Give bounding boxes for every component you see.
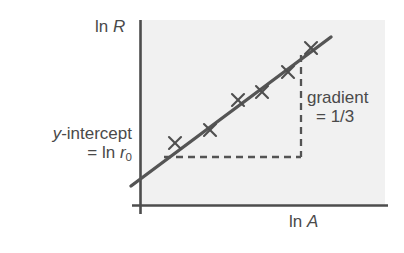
y-intercept-equals-ln: = ln <box>87 143 120 162</box>
y-intercept-annotation-line2: = ln r0 <box>14 143 132 163</box>
x-axis-label-prefix: ln <box>289 212 307 231</box>
x-axis-label-variable: A <box>307 212 318 231</box>
y-intercept-annotation: y-intercept = ln r0 <box>14 124 132 164</box>
y-intercept-variable: y <box>53 124 62 143</box>
y-intercept-r-subscript: 0 <box>126 151 132 163</box>
gradient-annotation-line1: gradient <box>307 88 368 107</box>
gradient-annotation-line2: = 1/3 <box>307 107 368 126</box>
y-axis-label: ln R <box>95 17 125 36</box>
y-axis-label-prefix: ln <box>95 17 113 36</box>
x-axis-label: ln A <box>289 212 318 231</box>
y-intercept-annotation-line1: y-intercept <box>53 124 132 143</box>
y-axis-label-variable: R <box>113 17 125 36</box>
y-intercept-suffix: -intercept <box>61 124 132 143</box>
figure-container: ln R ln A gradient = 1/3 y-intercept = l… <box>0 0 404 253</box>
gradient-annotation: gradient = 1/3 <box>307 88 368 126</box>
